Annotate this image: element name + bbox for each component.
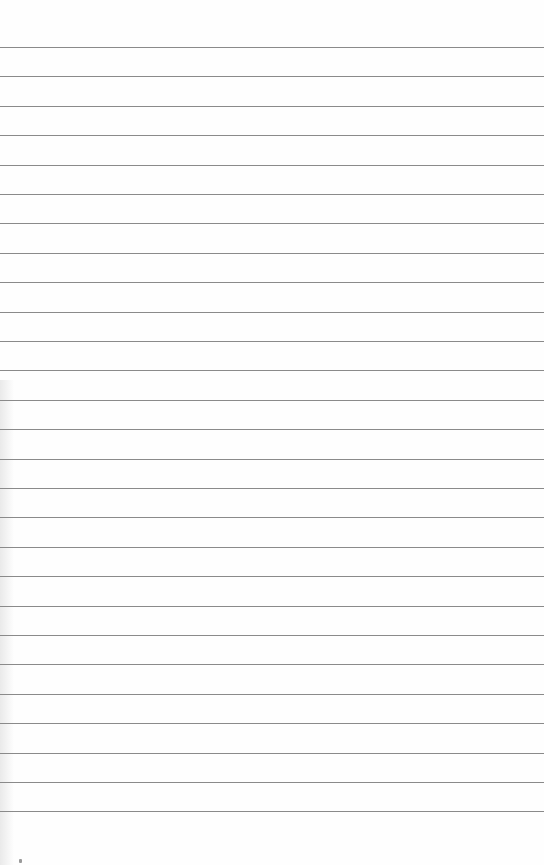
ruled-line: [0, 282, 544, 283]
ruled-line: [0, 223, 544, 224]
ruled-line: [0, 135, 544, 136]
ruled-line: [0, 753, 544, 754]
page-edge-shadow: [0, 380, 14, 865]
ruled-line: [0, 488, 544, 489]
ruled-line: [0, 723, 544, 724]
ruled-line: [0, 400, 544, 401]
ruled-line: [0, 517, 544, 518]
ruled-line: [0, 547, 544, 548]
ruled-line: [0, 76, 544, 77]
ruled-line: [0, 606, 544, 607]
ruled-line: [0, 194, 544, 195]
ruled-line: [0, 694, 544, 695]
ruled-line: [0, 341, 544, 342]
ruled-line: [0, 664, 544, 665]
ruled-line: [0, 312, 544, 313]
ruled-line: [0, 106, 544, 107]
ruled-line: [0, 165, 544, 166]
ruled-line: [0, 811, 544, 812]
ruled-line: [0, 576, 544, 577]
ruled-line: [0, 370, 544, 371]
ruled-line: [0, 253, 544, 254]
ruled-line: [0, 459, 544, 460]
ruled-line: [0, 635, 544, 636]
ruled-paper-page: [0, 0, 544, 865]
ruled-line: [0, 429, 544, 430]
ruled-line: [0, 782, 544, 783]
ruled-line: [0, 47, 544, 48]
stray-mark: [19, 859, 22, 863]
